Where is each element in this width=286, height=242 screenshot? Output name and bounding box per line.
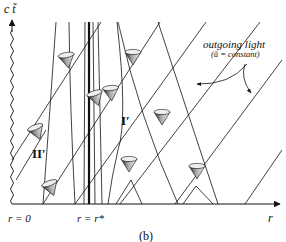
panel-label: (b) xyxy=(139,229,153,242)
r-star-label: r = r* xyxy=(77,212,104,224)
time-axis-singularity xyxy=(11,20,14,204)
horizon-lines xyxy=(84,22,95,204)
r-zero-label: r = 0 xyxy=(8,212,31,224)
region-outer-label: I′ xyxy=(121,113,130,128)
light-cones xyxy=(27,49,205,198)
horizontal-axis-label: r xyxy=(268,211,273,225)
annotation-subtitle: (ũ = constant) xyxy=(211,49,260,59)
spacetime-diagram: c t̃ r r = 0 r = r* (b) II′ I′ outgoing … xyxy=(0,0,286,242)
region-inner-label: II′ xyxy=(32,146,46,161)
vertical-axis-label: c t̃ xyxy=(4,2,17,16)
